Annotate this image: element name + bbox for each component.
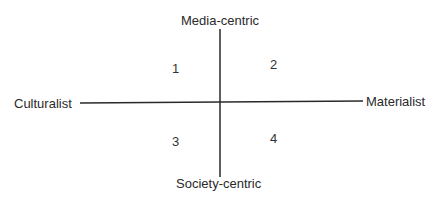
axis-label-left: Culturalist xyxy=(14,97,72,110)
axis-label-right: Materialist xyxy=(366,95,425,108)
quadrant-4-label: 4 xyxy=(270,132,277,145)
quadrant-1-label: 1 xyxy=(172,62,179,75)
axis-label-bottom: Society-centric xyxy=(176,177,261,190)
axis-label-top: Media-centric xyxy=(181,14,259,27)
quadrant-3-label: 3 xyxy=(172,135,179,148)
quadrant-2-label: 2 xyxy=(270,58,277,71)
horizontal-axis xyxy=(80,101,363,103)
